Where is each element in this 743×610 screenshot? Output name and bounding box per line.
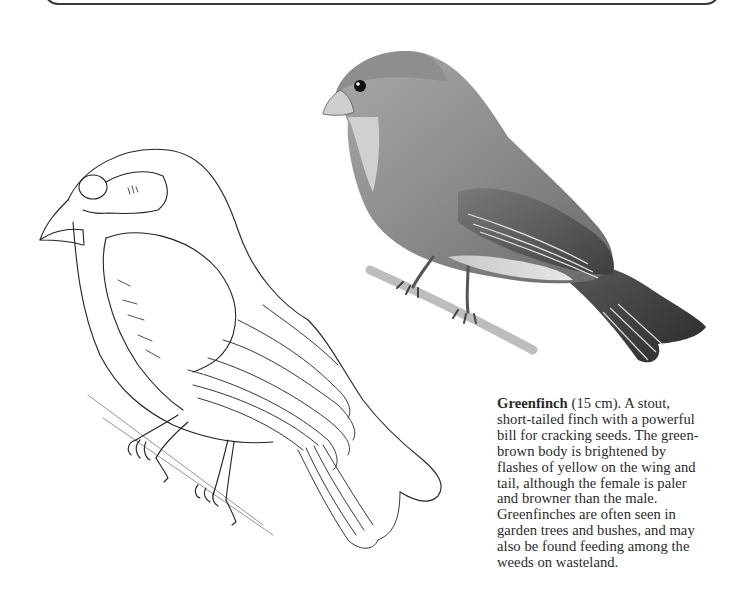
caption-line: brown body is brightened by: [497, 444, 719, 460]
caption-line: and browner than the male.: [497, 491, 719, 507]
species-caption: Greenfinch (15 cm). A stout, short-taile…: [497, 396, 719, 571]
caption-line-1: Greenfinch (15 cm). A stout,: [497, 396, 719, 412]
branch: [370, 270, 533, 350]
caption-line: Greenfinches are often seen in: [497, 507, 719, 523]
caption-line: garden trees and bushes, and may: [497, 523, 719, 539]
tail-feathers: [298, 445, 400, 548]
species-name: Greenfinch: [497, 395, 568, 411]
legs-feet: [128, 415, 236, 525]
page-frame-border: [44, 0, 720, 5]
caption-line: short-tailed finch with a powerful: [497, 412, 719, 428]
eye: [354, 80, 366, 92]
species-size: (15 cm).: [571, 395, 621, 411]
greenfinch-shaded-illustration: [318, 42, 723, 372]
caption-line: weeds on wasteland.: [497, 555, 719, 571]
caption-line: tail, although the female is paler: [497, 476, 719, 492]
caption-line: flashes of yellow on the wing and: [497, 460, 719, 476]
caption-line: bill for cracking seeds. The green-: [497, 428, 719, 444]
branch-lines: [88, 395, 273, 535]
caption-line: also be found feeding among the: [497, 539, 719, 555]
